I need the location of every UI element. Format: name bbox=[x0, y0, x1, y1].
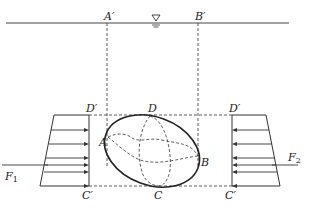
label-f2: F2 bbox=[287, 151, 301, 165]
label-d: D bbox=[147, 102, 157, 115]
label-c-prime-right: C′ bbox=[225, 189, 236, 202]
label-c: C bbox=[154, 189, 163, 202]
label-f1: F1 bbox=[4, 170, 18, 184]
diagram-canvas: A′ B′ D′ D D′ A B C′ C C′ F1 F2 bbox=[0, 0, 309, 213]
water-level-icon bbox=[152, 15, 160, 27]
label-b: B bbox=[200, 156, 209, 169]
label-c-prime-left: C′ bbox=[82, 189, 93, 202]
label-d-prime-left: D′ bbox=[85, 102, 98, 115]
label-a: A bbox=[98, 136, 107, 149]
label-b-prime: B′ bbox=[194, 10, 206, 23]
label-a-prime: A′ bbox=[103, 10, 115, 23]
inner-dashed-curves bbox=[108, 116, 198, 186]
label-d-prime-right: D′ bbox=[228, 102, 241, 115]
